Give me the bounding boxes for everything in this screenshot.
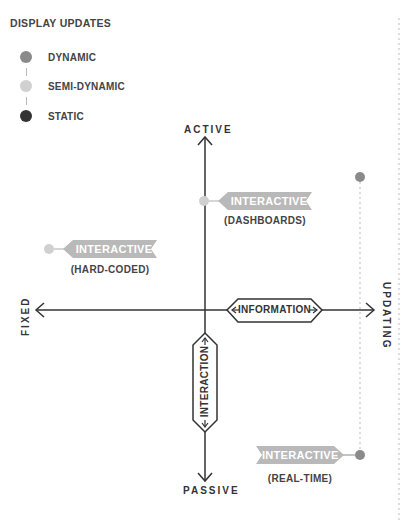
dashboards-dot-icon [199, 196, 209, 206]
axis-label-active: ACTIVE [184, 124, 233, 135]
hard-coded-subtitle: (HARD-CODED) [63, 264, 157, 275]
dashboards-subtitle: (DASHBOARDS) [218, 215, 312, 226]
hard-coded-title: INTERACTIVE [73, 243, 155, 255]
axis-label-updating: UPDATING [381, 282, 392, 349]
hard-coded-dot-icon [44, 244, 54, 254]
information-label: INFORMATION [238, 304, 311, 315]
real-time-title: INTERACTIVE [262, 449, 334, 461]
quadrant-diagram [0, 0, 408, 523]
axis-label-fixed: FIXED [20, 297, 31, 336]
real-time-subtitle: (REAL-TIME) [256, 473, 344, 484]
interaction-label: INTERACTION [199, 345, 210, 418]
real-time-dot-icon [355, 450, 365, 460]
axis-label-passive: PASSIVE [183, 485, 240, 496]
dashboards-title: INTERACTIVE [228, 195, 310, 207]
dynamic-top-dot-icon [355, 172, 365, 182]
